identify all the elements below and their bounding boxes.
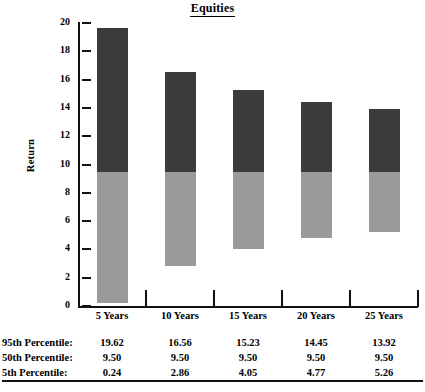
- table-row: 95th Percentile:19.6216.5615.2314.4513.9…: [0, 336, 425, 350]
- y-axis-tick-label: 8: [44, 187, 70, 197]
- y-axis-tick: [82, 164, 91, 166]
- table-cell: 5.26: [353, 366, 415, 380]
- x-axis-tick: [281, 290, 283, 307]
- table-cell: 0.24: [81, 366, 143, 380]
- y-axis-tick: [82, 135, 91, 137]
- bar-segment-lower: [369, 172, 400, 232]
- plot-area: Return 02468101214161820 5 Years10 Years…: [0, 0, 425, 320]
- bar-segment-upper: [97, 28, 128, 171]
- y-axis-tick-label: 4: [44, 243, 70, 253]
- table-row: 50th Percentile:9.509.509.509.509.50: [0, 351, 425, 365]
- table-cell: 15.23: [217, 336, 279, 350]
- table-cell: 14.45: [285, 336, 347, 350]
- bar-10-years: [165, 72, 196, 266]
- x-axis-tick: [349, 290, 351, 307]
- y-axis-tick-label-text: 18: [44, 45, 70, 55]
- y-axis-title: Return: [25, 121, 36, 191]
- y-axis-line: [78, 22, 80, 307]
- y-axis-tick: [82, 220, 91, 222]
- bar-25-years: [369, 109, 400, 232]
- bar-segment-lower: [301, 172, 332, 239]
- table-row-label: 95th Percentile:: [2, 336, 92, 350]
- y-axis-tick-label-text: 14: [44, 102, 70, 112]
- bar-5-years: [97, 28, 128, 302]
- y-axis-tick-label: 16: [44, 74, 70, 84]
- x-axis-label-5-years: 5 Years: [78, 309, 146, 322]
- y-axis-tick-label-text: 12: [44, 130, 70, 140]
- table-row-label: 5th Percentile:: [2, 366, 92, 380]
- y-axis-tick-label-text: 20: [44, 17, 70, 27]
- bottom-divider: [2, 380, 423, 382]
- bar-segment-lower: [233, 172, 264, 249]
- y-axis-tick-label: 12: [44, 130, 70, 140]
- x-axis-label-20-years: 20 Years: [282, 309, 350, 322]
- y-axis-tick: [82, 107, 91, 109]
- x-axis-tick: [145, 290, 147, 307]
- bar-segment-lower: [97, 172, 128, 303]
- x-axis-label-15-years: 15 Years: [214, 309, 282, 322]
- y-axis-tick-label-text: 2: [44, 272, 70, 282]
- y-axis-tick-label-text: 16: [44, 74, 70, 84]
- bar-segment-upper: [165, 72, 196, 172]
- x-axis-tick: [78, 290, 80, 307]
- y-axis-tick-label: 14: [44, 102, 70, 112]
- x-axis-line: [78, 306, 418, 308]
- bar-segment-lower: [165, 172, 196, 266]
- percentile-data-table: 95th Percentile:19.6216.5615.2314.4513.9…: [0, 336, 425, 382]
- table-cell: 13.92: [353, 336, 415, 350]
- bar-segment-upper: [369, 109, 400, 172]
- y-axis-tick-label: 18: [44, 45, 70, 55]
- y-axis-tick: [82, 277, 91, 279]
- y-axis-tick-label-text: 6: [44, 215, 70, 225]
- x-axis-tick: [417, 290, 419, 307]
- table-cell: 4.77: [285, 366, 347, 380]
- y-axis-tick-label-text: 8: [44, 187, 70, 197]
- table-cell: 16.56: [149, 336, 211, 350]
- table-cell: 4.05: [217, 366, 279, 380]
- table-cell: 9.50: [285, 351, 347, 365]
- y-axis-tick: [82, 192, 91, 194]
- table-cell: 9.50: [217, 351, 279, 365]
- table-cell: 9.50: [81, 351, 143, 365]
- x-axis-tick: [213, 290, 215, 307]
- table-cell: 2.86: [149, 366, 211, 380]
- equities-percentile-chart: Equities Return 02468101214161820 5 Year…: [0, 0, 425, 392]
- y-axis-tick-label: 2: [44, 272, 70, 282]
- bar-segment-upper: [301, 102, 332, 172]
- y-axis-tick-label: 10: [44, 159, 70, 169]
- y-axis-tick: [82, 22, 91, 24]
- table-cell: 9.50: [353, 351, 415, 365]
- y-axis-tick: [82, 79, 91, 81]
- table-row-label: 50th Percentile:: [2, 351, 92, 365]
- y-axis-tick-label-text: 4: [44, 243, 70, 253]
- bar-15-years: [233, 90, 264, 248]
- y-axis-tick-label-text: 10: [44, 159, 70, 169]
- x-axis-label-10-years: 10 Years: [146, 309, 214, 322]
- table-cell: 19.62: [81, 336, 143, 350]
- y-axis-tick-label-text: 0: [44, 300, 70, 310]
- y-axis-tick-label: 0: [44, 300, 70, 310]
- bar-20-years: [301, 102, 332, 239]
- y-axis-tick: [82, 50, 91, 52]
- table-row: 5th Percentile:0.242.864.054.775.26: [0, 366, 425, 380]
- y-axis-tick: [82, 248, 91, 250]
- y-axis-tick-label: 6: [44, 215, 70, 225]
- bar-segment-upper: [233, 90, 264, 171]
- table-cell: 9.50: [149, 351, 211, 365]
- y-axis-tick-label: 20: [44, 17, 70, 27]
- x-axis-label-25-years: 25 Years: [350, 309, 418, 322]
